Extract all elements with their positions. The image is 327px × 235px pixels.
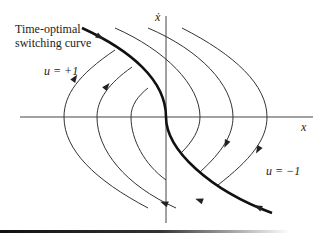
arrow-icon (194, 196, 204, 204)
y-axis-label: ẋ (155, 11, 160, 23)
bottom-rule (0, 230, 290, 233)
trajectory-curve (97, 67, 176, 208)
trajectory-curve (182, 28, 267, 185)
trajectory-curve (115, 28, 200, 152)
x-axis-label: x (301, 121, 306, 133)
switching-curve-label-line2: switching curve (15, 37, 91, 49)
switching-curve-label-line1: Time-optimal (15, 23, 81, 35)
trajectory-curve (148, 28, 233, 172)
u-plus-label: u = +1 (44, 65, 78, 77)
trajectory-curve (131, 88, 166, 180)
trajectories-u-minus (115, 28, 267, 185)
u-minus-label: u = −1 (266, 165, 300, 177)
trajectories-u-plus (64, 50, 176, 208)
